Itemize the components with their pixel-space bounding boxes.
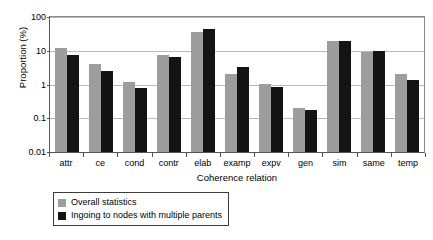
- legend-swatch-ingoing-multiple-parents: [58, 212, 66, 220]
- x-tick-label: gen: [288, 157, 322, 169]
- bar: [169, 57, 181, 152]
- bar-group: [288, 17, 322, 152]
- x-tick-label: cond: [117, 157, 151, 169]
- bar: [293, 108, 305, 152]
- plot-area: 0.010.1110100: [49, 16, 425, 153]
- bar: [191, 32, 203, 152]
- legend-label: Overall statistics: [71, 197, 137, 208]
- legend-swatch-overall-statistics: [58, 199, 66, 207]
- legend-label: Ingoing to nodes with multiple parents: [71, 210, 222, 221]
- bar: [327, 41, 339, 152]
- x-tick-label: elab: [186, 157, 220, 169]
- bar-group: [220, 17, 254, 152]
- bar: [395, 74, 407, 152]
- bar: [373, 51, 385, 152]
- bar: [67, 55, 79, 152]
- x-axis-title: Coherence relation: [49, 172, 425, 183]
- bar-group: [356, 17, 390, 152]
- x-tick-label: same: [357, 157, 391, 169]
- bar: [237, 67, 249, 152]
- bar: [157, 55, 169, 152]
- x-tick-label: sim: [323, 157, 357, 169]
- y-tick-label: 0.1: [33, 114, 46, 123]
- bar: [361, 52, 373, 152]
- x-tick-label: temp: [391, 157, 425, 169]
- y-tick-label: 100: [31, 13, 46, 22]
- bar: [407, 80, 419, 152]
- bar-chart-figure: Proportion (%) 0.010.1110100 attrcecondc…: [0, 0, 433, 240]
- y-tick-label: 10: [36, 46, 46, 55]
- bar: [339, 41, 351, 152]
- bar: [305, 110, 317, 152]
- x-tick-label: examp: [220, 157, 254, 169]
- y-tick-label: 0.01: [28, 148, 46, 157]
- bar-group: [322, 17, 356, 152]
- bar-group: [390, 17, 424, 152]
- x-axis-tick-labels: attrcecondcontrelabexampexpvgensimsamete…: [49, 157, 425, 169]
- x-tick-label: contr: [152, 157, 186, 169]
- bar: [259, 84, 271, 152]
- y-axis-title: Proportion (%): [17, 0, 28, 118]
- bar: [89, 64, 101, 152]
- bar: [135, 88, 147, 152]
- bar-group: [152, 17, 186, 152]
- bar-group: [84, 17, 118, 152]
- x-tick-label: attr: [49, 157, 83, 169]
- legend-item: Ingoing to nodes with multiple parents: [58, 209, 222, 222]
- bar: [203, 29, 215, 152]
- bar-group: [186, 17, 220, 152]
- bar-group: [254, 17, 288, 152]
- bar-group: [118, 17, 152, 152]
- bar-group: [50, 17, 84, 152]
- x-tick-label: ce: [83, 157, 117, 169]
- bar: [123, 82, 135, 152]
- bar: [101, 71, 113, 153]
- bar: [271, 87, 283, 152]
- bar-series-container: [50, 17, 424, 152]
- bar: [55, 48, 67, 152]
- y-tick-label: 1: [41, 80, 46, 89]
- bar: [225, 74, 237, 152]
- x-tick-mark: [425, 153, 426, 157]
- legend-item: Overall statistics: [58, 196, 222, 209]
- chart-legend: Overall statistics Ingoing to nodes with…: [53, 192, 229, 226]
- x-tick-label: expv: [254, 157, 288, 169]
